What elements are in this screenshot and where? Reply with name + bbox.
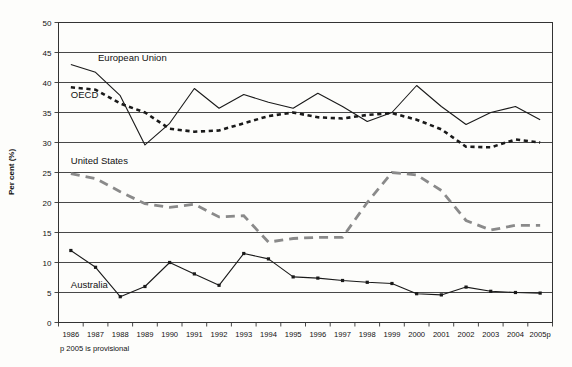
- y-tick-label: 25: [43, 169, 52, 178]
- x-tick-label: 1999: [383, 330, 400, 339]
- data-point-marker: [440, 293, 443, 296]
- data-point-marker: [242, 252, 245, 255]
- y-tick-label: 30: [43, 139, 52, 148]
- x-tick-label: 1997: [334, 330, 351, 339]
- data-point-marker: [514, 291, 517, 294]
- x-axis-tick-labels: 1986198719881989199019911992199319941995…: [62, 330, 550, 339]
- series-label-oecd: OECD: [71, 89, 99, 100]
- y-tick-label: 0: [47, 319, 52, 328]
- y-tick-label: 40: [43, 79, 52, 88]
- data-point-marker: [94, 266, 97, 269]
- x-tick-label: 2001: [433, 330, 450, 339]
- data-point-marker: [341, 279, 344, 282]
- data-point-marker: [143, 285, 146, 288]
- gridlines: [59, 53, 553, 293]
- series-label-australia: Australia: [71, 279, 109, 290]
- series-line-united-states: [71, 173, 540, 243]
- chart-footnote: p 2005 is provisional: [60, 344, 130, 353]
- y-tick-label: 50: [43, 19, 52, 28]
- y-tick-label: 45: [43, 49, 52, 58]
- data-point-marker: [415, 292, 418, 295]
- series-annotations: European UnionOECDUnited StatesAustralia: [71, 52, 167, 290]
- x-tick-label: 1986: [62, 330, 79, 339]
- series-label-european-union: European Union: [98, 52, 167, 63]
- x-tick-label: 1996: [309, 330, 326, 339]
- x-tick-label: 1992: [211, 330, 228, 339]
- x-tick-label: 1998: [359, 330, 376, 339]
- data-point-marker: [168, 261, 171, 264]
- data-point-marker: [193, 272, 196, 275]
- data-point-marker: [119, 295, 122, 298]
- x-tick-label: 1988: [112, 330, 129, 339]
- x-tick-label: 1991: [186, 330, 203, 339]
- data-point-marker: [267, 257, 270, 260]
- x-tick-label: 2002: [458, 330, 475, 339]
- x-tick-label: 1995: [285, 330, 302, 339]
- data-point-marker: [489, 290, 492, 293]
- data-point-marker: [366, 281, 369, 284]
- series-line-european-union: [71, 65, 540, 145]
- x-tick-label: 1993: [235, 330, 252, 339]
- line-chart: 05101520253035404550 1986198719881989199…: [0, 0, 572, 367]
- x-tick-label: 2005p: [530, 330, 551, 339]
- x-tick-label: 2000: [408, 330, 425, 339]
- y-tick-label: 10: [43, 259, 52, 268]
- y-tick-label: 5: [47, 289, 52, 298]
- series-layer: [69, 65, 542, 299]
- x-tick-label: 1990: [161, 330, 178, 339]
- data-point-marker: [217, 284, 220, 287]
- data-point-marker: [464, 286, 467, 289]
- y-axis-title: Per cent (%): [7, 149, 16, 196]
- x-tick-label: 2003: [482, 330, 499, 339]
- x-axis-tick-marks: [59, 323, 553, 327]
- series-line-australia: [71, 251, 540, 297]
- x-tick-label: 1989: [136, 330, 153, 339]
- y-tick-label: 35: [43, 109, 52, 118]
- data-point-marker: [539, 292, 542, 295]
- data-point-marker: [390, 282, 393, 285]
- data-point-marker: [316, 277, 319, 280]
- x-tick-label: 1987: [87, 330, 104, 339]
- chart-container: 05101520253035404550 1986198719881989199…: [0, 0, 572, 367]
- x-tick-label: 2004: [507, 330, 524, 339]
- y-tick-label: 20: [43, 199, 52, 208]
- x-tick-label: 1994: [260, 330, 277, 339]
- y-axis-tick-labels: 05101520253035404550: [43, 19, 59, 328]
- data-point-marker: [292, 275, 295, 278]
- data-point-marker: [69, 249, 72, 252]
- series-label-united-states: United States: [71, 155, 128, 166]
- y-tick-label: 15: [43, 229, 52, 238]
